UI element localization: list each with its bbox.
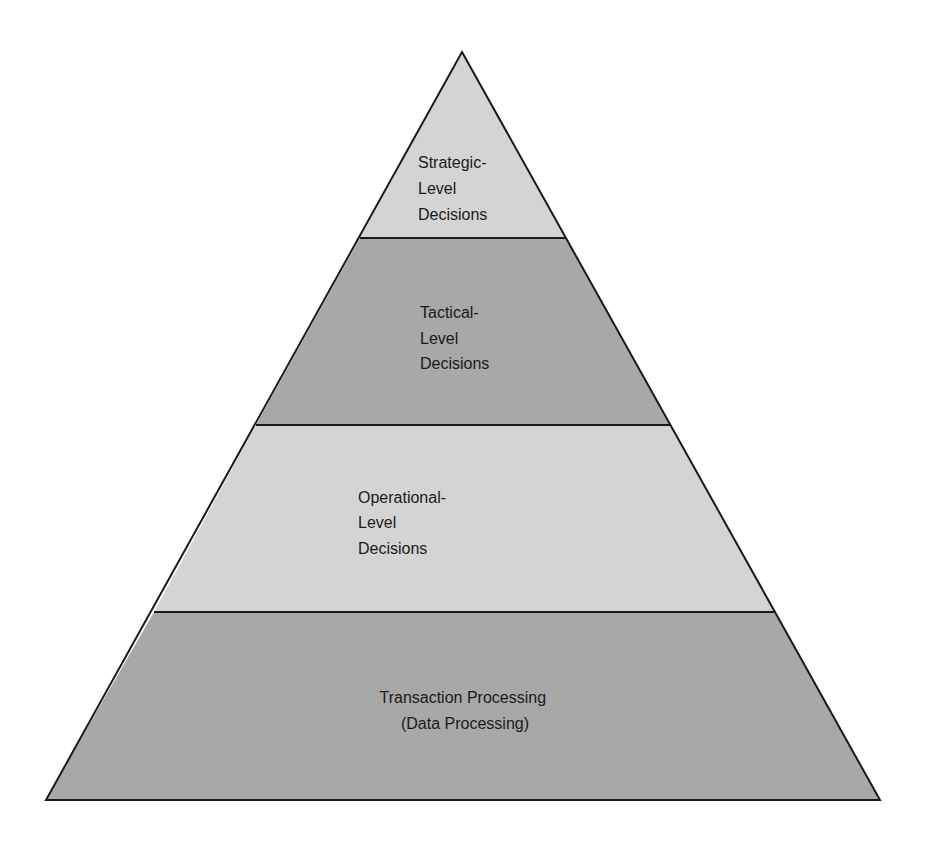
label-line: Level — [420, 330, 458, 347]
label-line: Decisions — [418, 206, 487, 223]
label-line: Decisions — [358, 540, 427, 557]
label-line: Level — [358, 514, 396, 531]
decision-pyramid-diagram: Strategic- Level Decisions Tactical- Lev… — [0, 0, 926, 841]
label-line: (Data Processing) — [401, 715, 529, 732]
label-line: Strategic- — [418, 154, 486, 171]
label-line: Level — [418, 180, 456, 197]
tier-tactical-shape — [256, 238, 670, 425]
label-line: Tactical- — [420, 304, 479, 321]
label-line: Transaction Processing — [379, 689, 546, 706]
label-line: Operational- — [358, 489, 446, 506]
label-line: Decisions — [420, 355, 489, 372]
tier-transaction-shape — [46, 612, 880, 800]
tier-operational-shape — [154, 425, 774, 612]
